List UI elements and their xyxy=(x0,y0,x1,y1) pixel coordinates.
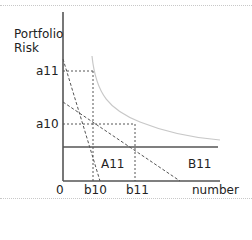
line-A11 xyxy=(63,59,100,181)
x-axis-label: number xyxy=(192,183,239,197)
tick-a11: a11 xyxy=(36,64,59,78)
risk-curve xyxy=(92,56,220,140)
annotation-B11: B11 xyxy=(188,157,212,171)
tick-b11: b11 xyxy=(126,183,149,197)
annotation-A11: A11 xyxy=(101,157,124,171)
y-axis-label-line2: Risk xyxy=(14,41,39,55)
tick-a10: a10 xyxy=(36,117,59,131)
y-axis-label-line1: Portfolio xyxy=(14,27,63,41)
origin-label: 0 xyxy=(56,183,64,197)
tick-b10: b10 xyxy=(84,183,107,197)
